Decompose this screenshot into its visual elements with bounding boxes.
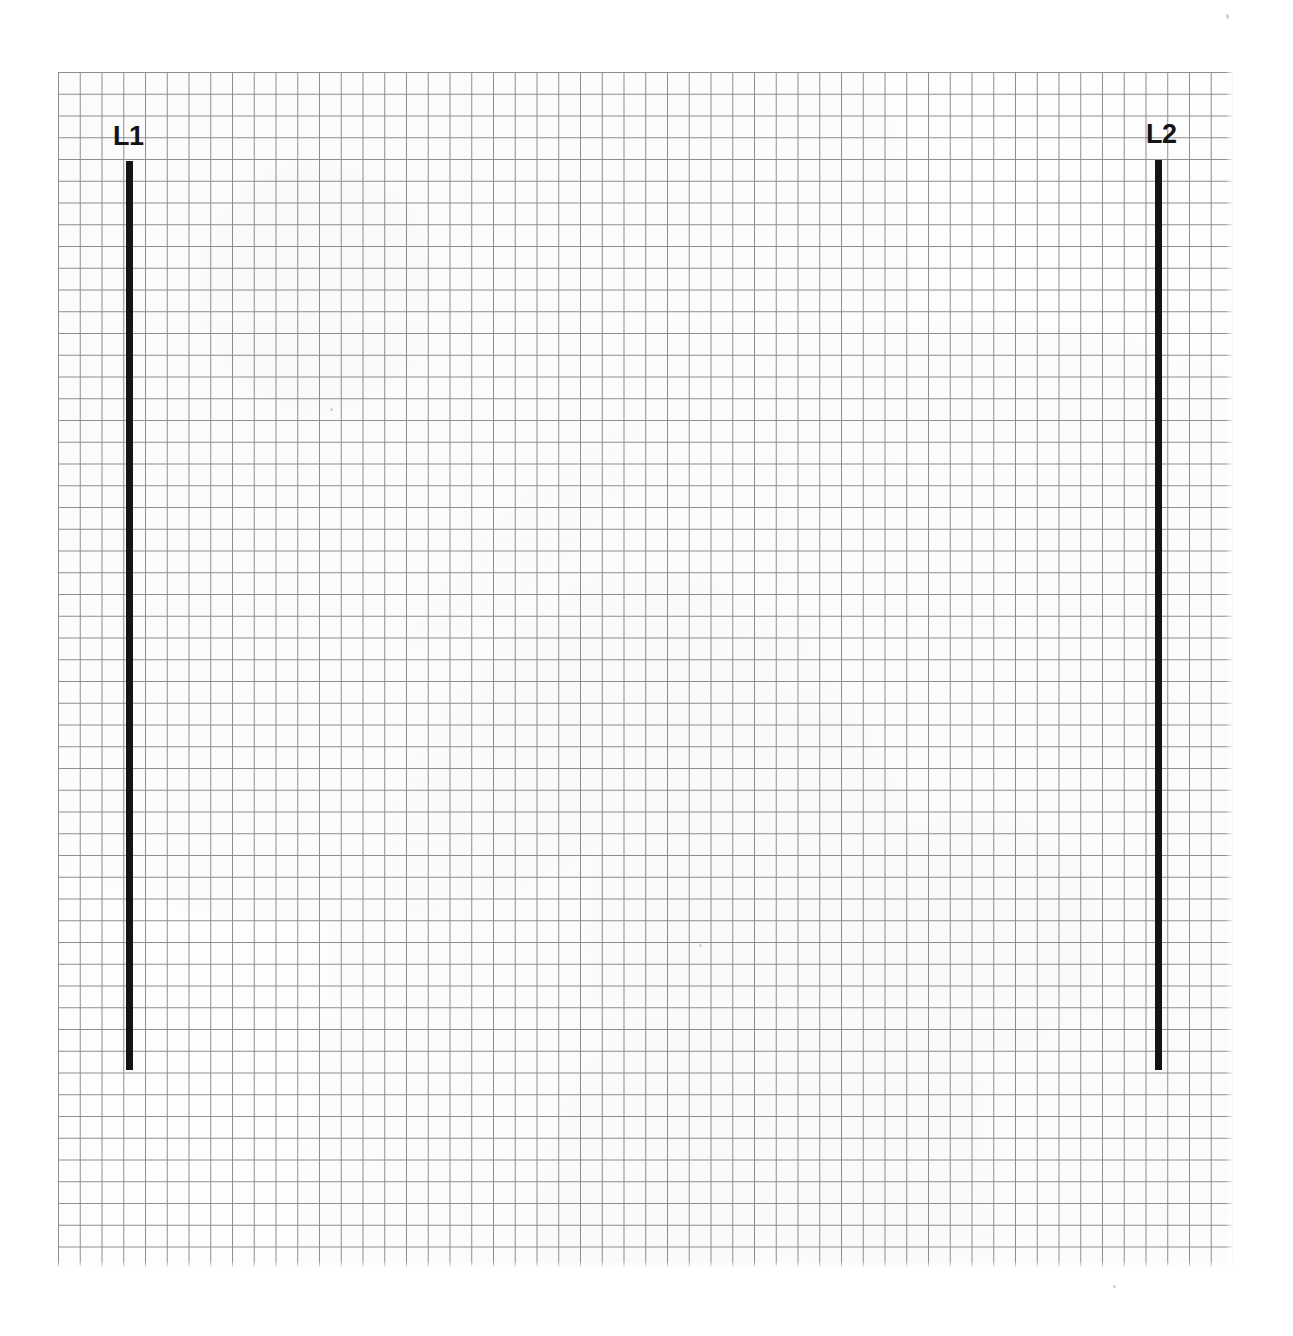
line-segment-l2 bbox=[1155, 160, 1162, 1070]
line-segment-l1-label: L1 bbox=[113, 123, 144, 150]
scan-speck bbox=[1113, 1285, 1116, 1288]
graph-paper-grid bbox=[58, 72, 1235, 1269]
line-segment-l1 bbox=[126, 161, 133, 1070]
grid-right-edge-fade bbox=[1225, 72, 1235, 1269]
grid-bottom-edge-fade bbox=[58, 1261, 1235, 1269]
line-segment-l2-label: L2 bbox=[1146, 121, 1177, 148]
figure-canvas: L1 L2 bbox=[0, 0, 1293, 1336]
paper-texture-overlay bbox=[58, 72, 1235, 1269]
scan-speck bbox=[1226, 14, 1229, 19]
